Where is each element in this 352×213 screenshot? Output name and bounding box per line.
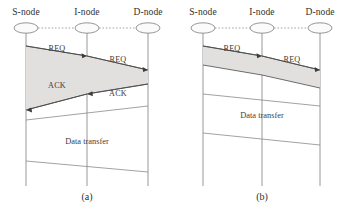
panel-b-phase-label-data-transfer: Data transfer: [240, 111, 284, 120]
panel-b-node-ellipse-s: [191, 23, 215, 33]
panel-b-node-label-i: I-node: [249, 7, 274, 17]
panel-a-shade-left: [26, 46, 87, 110]
sequence-diagram-svg: S-node I-node D-node: [0, 0, 352, 213]
panel-a-msg-label-ack-2: ACK: [109, 89, 127, 98]
panel-b-phase-top-edge: [203, 94, 320, 106]
panel-a-node-ellipse-i: [75, 23, 99, 33]
panel-a-msg-label-req-1: REQ: [49, 44, 66, 53]
panel-b-msg-label-req-2: REQ: [284, 55, 301, 64]
panel-b-caption: (b): [256, 191, 268, 203]
panel-a-node-label-d: D-node: [133, 7, 162, 17]
panel-b-node-label-s: S-node: [189, 7, 217, 17]
panel-a-caption: (a): [81, 191, 92, 203]
panel-a-phase-label-data-transfer: Data transfer: [65, 137, 109, 146]
panel-a-msg-label-ack-1: ACK: [48, 81, 66, 90]
panel-a-node-label-i: I-node: [74, 7, 99, 17]
panel-a-msg-label-req-2: REQ: [110, 55, 127, 64]
panel-b-node-ellipse-i: [250, 23, 274, 33]
figure-root: S-node I-node D-node: [0, 0, 352, 213]
panel-a-node-label-s: S-node: [12, 7, 40, 17]
panel-a-node-ellipse-d: [136, 23, 160, 33]
panel-b: S-node I-node D-node: [189, 7, 334, 203]
panel-b-node-ellipse-d: [308, 23, 332, 33]
panel-b-node-label-d: D-node: [305, 7, 334, 17]
panel-b-msg-label-req-1: REQ: [224, 44, 241, 53]
panel-a: S-node I-node D-node: [12, 7, 162, 203]
panel-b-phase-bottom-edge: [203, 133, 320, 145]
panel-a-node-ellipse-s: [14, 23, 38, 33]
